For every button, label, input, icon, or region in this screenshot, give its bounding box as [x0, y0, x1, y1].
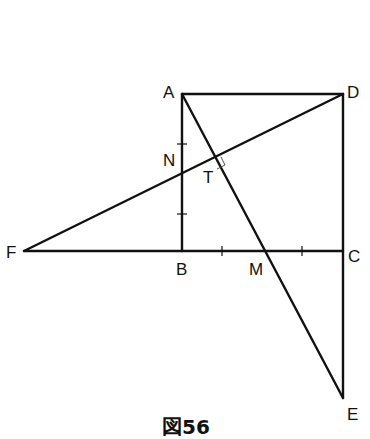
label-B: B [176, 260, 187, 279]
label-F: F [6, 243, 16, 262]
label-N: N [163, 151, 175, 170]
label-T: T [203, 168, 213, 187]
label-C: C [348, 247, 360, 266]
label-M: M [249, 260, 263, 279]
label-D: D [347, 83, 359, 102]
label-A: A [163, 83, 175, 102]
geometry-figure: A D N T F B M C E 図56 [0, 0, 370, 439]
segment-FD [24, 94, 343, 251]
figure-caption: 図56 [162, 415, 210, 439]
label-E: E [347, 405, 358, 424]
segment-AE [182, 94, 343, 398]
